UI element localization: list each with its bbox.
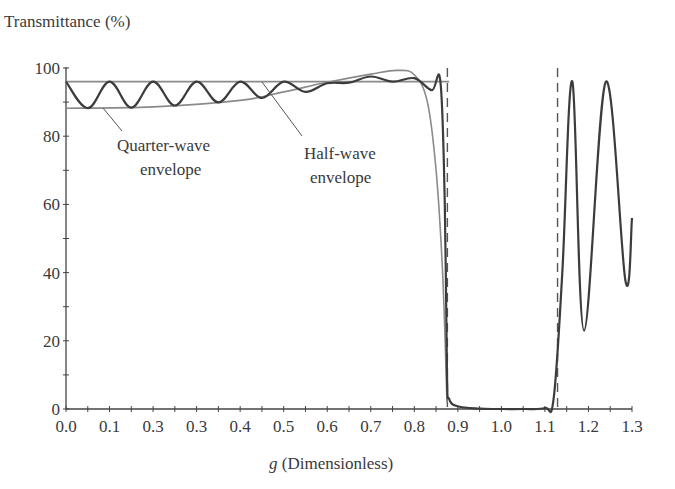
quarter-wave-label-2: envelope <box>140 160 201 179</box>
quarter-wave-label: Quarter-wave <box>117 136 210 155</box>
x-tick-label: 0.9 <box>447 417 468 436</box>
y-tick-label: 0 <box>52 400 61 419</box>
x-tick-label: 0.5 <box>273 417 294 436</box>
x-tick-label: 0.3 <box>142 417 163 436</box>
y-tick-label: 40 <box>43 264 60 283</box>
x-tick-label: 1.3 <box>621 417 642 436</box>
transmittance-chart: Transmittance (%) 0.00.10.30.30.40.50.60… <box>0 0 675 489</box>
x-tick-label: 0.6 <box>317 417 338 436</box>
x-tick-label: 0.3 <box>186 417 207 436</box>
y-tick-label: 100 <box>35 59 61 78</box>
axes <box>63 67 632 412</box>
quarter-wave-envelope-line <box>66 70 447 402</box>
half-wave-label: Half-wave <box>304 144 376 163</box>
x-tick-label: 0.7 <box>360 417 382 436</box>
x-tick-label: 0.1 <box>99 417 120 436</box>
half-wave-pointer <box>262 82 302 136</box>
dashed-reference-lines <box>447 68 557 409</box>
x-tick-label: 1.0 <box>491 417 512 436</box>
x-tick-label: 1.1 <box>534 417 555 436</box>
y-tick-label: 20 <box>43 332 60 351</box>
envelope-curves <box>66 70 449 402</box>
x-tick-label: 0.4 <box>230 417 252 436</box>
y-tick-label: 80 <box>43 127 60 146</box>
x-tick-label: 0.0 <box>55 417 76 436</box>
y-axis-title: Transmittance (%) <box>4 12 130 31</box>
x-tick-label: 0.8 <box>404 417 425 436</box>
x-tick-label: 1.2 <box>578 417 599 436</box>
x-axis-title: g (Dimensionless) <box>269 454 393 473</box>
transmittance-line <box>66 74 632 412</box>
tick-labels: 0.00.10.30.30.40.50.60.70.80.91.01.11.21… <box>35 59 643 436</box>
half-wave-label-2: envelope <box>310 168 371 187</box>
x-axis-title-variable: g <box>269 454 278 473</box>
quarter-wave-pointer <box>103 108 122 131</box>
y-tick-label: 60 <box>43 195 60 214</box>
x-axis-title-unit: (Dimensionless) <box>278 454 394 473</box>
transmittance-curve <box>66 74 632 412</box>
